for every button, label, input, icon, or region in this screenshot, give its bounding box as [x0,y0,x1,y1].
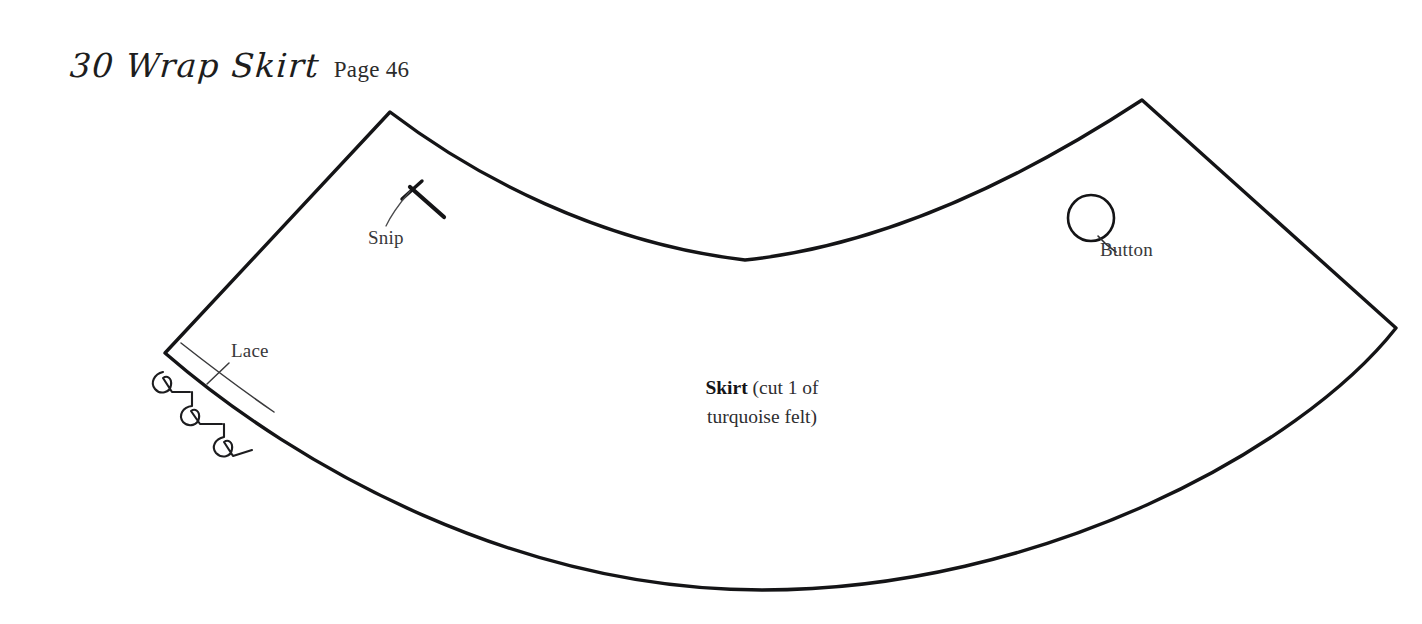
pattern-title-block: 30 Wrap Skirt Page 46 [70,46,409,85]
pattern-sheet: 30 Wrap Skirt Page 46 Snip Lace Button S… [0,0,1422,624]
piece-label-skirt: Skirt (cut 1 ofturquoise felt) [612,373,912,431]
lace-label: Lace [231,340,269,362]
page-title: 30 Wrap Skirt [69,46,322,85]
skirt-pattern-outline [165,100,1396,590]
piece-cut-text-line2: turquoise felt) [707,406,817,427]
snip-leader-line [386,191,410,226]
piece-name-text: Skirt [705,377,747,398]
snip-notch-icon [402,181,444,217]
snip-label: Snip [368,227,404,249]
button-label: Button [1100,239,1153,261]
button-circle-icon [1068,195,1114,241]
skirt-pattern-drawing [0,0,1422,624]
page-reference: Page 46 [334,57,410,83]
piece-cut-text-line1: (cut 1 of [753,377,819,398]
